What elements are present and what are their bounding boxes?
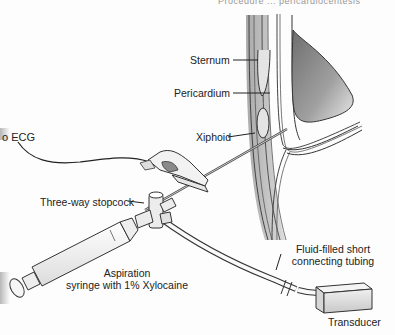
label-pericardium: Pericardium	[174, 87, 230, 99]
transducer	[316, 283, 372, 313]
label-syringe: Aspiration syringe with 1% Xylocaine	[62, 267, 192, 291]
three-way-stopcock	[135, 192, 176, 228]
diagram-artwork	[0, 0, 395, 335]
label-three-way-stopcock: Three-way stopcock	[40, 196, 134, 208]
scan-edge-fade	[0, 272, 10, 304]
label-syringe-line2: syringe with 1% Xylocaine	[62, 279, 192, 291]
label-transducer: Transducer	[328, 316, 381, 328]
label-xiphoid: Xiphoid	[196, 131, 231, 143]
label-tubing-line2: connecting tubing	[278, 255, 388, 267]
label-sternum: Sternum	[190, 54, 230, 66]
label-to-ecg: o ECG	[2, 131, 35, 143]
label-syringe-line1: Aspiration	[62, 267, 192, 279]
label-tubing: Fluid-filled short connecting tubing	[278, 243, 388, 267]
label-tubing-line1: Fluid-filled short	[278, 243, 388, 255]
ecg-lead	[18, 142, 150, 163]
alligator-clip	[140, 150, 208, 192]
pericardiocentesis-diagram: Procedure ... pericardiocentesis	[0, 0, 395, 335]
heart	[292, 30, 353, 122]
